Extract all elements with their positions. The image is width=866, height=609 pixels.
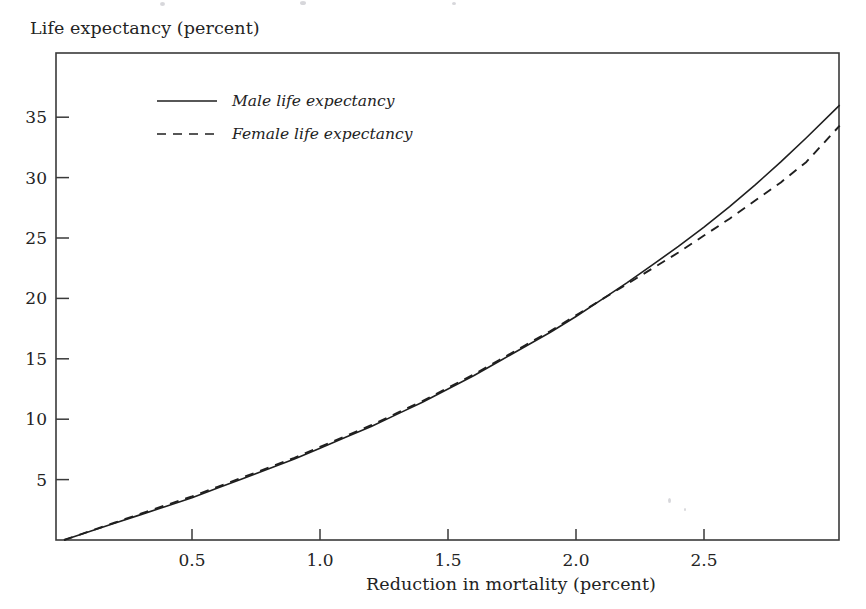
x-tick-label: 2.5	[690, 550, 717, 570]
scan-speck	[452, 2, 456, 5]
legend: Male life expectancy Female life expecta…	[157, 92, 413, 143]
y-tick-label: 35	[25, 107, 47, 127]
y-tick-label: 25	[25, 228, 47, 248]
y-tick-label: 10	[25, 409, 47, 429]
y-axis-ticks: 5101520253035	[25, 107, 69, 489]
legend-label-male: Male life expectancy	[231, 92, 395, 110]
x-tick-label: 2.0	[562, 550, 589, 570]
y-tick-label: 20	[25, 288, 47, 308]
x-tick-label: 1.0	[306, 550, 333, 570]
y-tick-label: 30	[25, 168, 47, 188]
chart-plot-area: 5101520253035 0.51.01.52.02.5 Male life …	[0, 0, 866, 609]
scan-speck	[684, 508, 686, 511]
y-tick-label: 15	[25, 349, 47, 369]
series-line-male	[64, 105, 840, 540]
figure-container: Life expectancy (percent) 5101520253035 …	[0, 0, 866, 609]
x-tick-label: 1.5	[434, 550, 461, 570]
plot-frame	[56, 53, 839, 540]
x-tick-label: 0.5	[178, 550, 205, 570]
scan-speck	[160, 2, 165, 6]
x-axis-title: Reduction in mortality (percent)	[366, 574, 656, 594]
data-series-layer	[64, 105, 840, 540]
y-tick-label: 5	[36, 470, 47, 490]
scan-speck	[300, 1, 306, 5]
series-line-female	[64, 126, 840, 540]
x-axis-ticks: 0.51.01.52.02.5	[178, 529, 717, 570]
x-axis-title-wrap: Reduction in mortality (percent)	[0, 574, 866, 594]
legend-label-female: Female life expectancy	[231, 125, 413, 143]
scan-speck	[668, 498, 671, 503]
